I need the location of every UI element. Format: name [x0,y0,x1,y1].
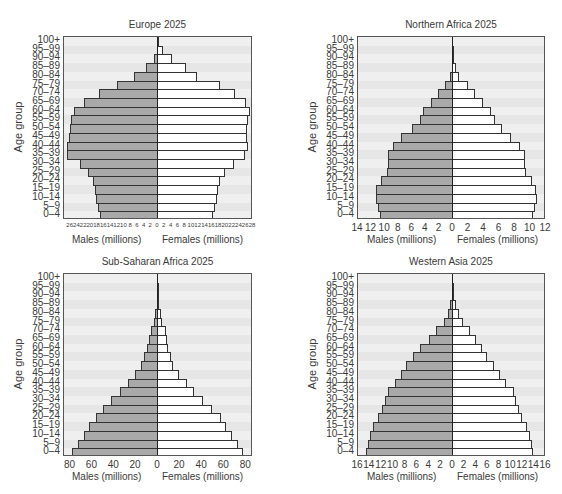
male-bar [103,405,159,415]
female-bar [452,142,520,152]
male-bar [84,431,159,441]
female-bar [452,168,526,178]
male-bar [70,124,159,134]
female-bar [452,431,530,441]
male-bar [388,387,454,397]
age-group-label: 0–4 [20,446,60,456]
female-bar [157,133,247,143]
male-bar [95,185,159,195]
male-bar [72,448,159,456]
y-axis-title: Age group [306,92,318,162]
female-bar [452,98,483,108]
x-tick-label-right: 40 [191,459,211,470]
y-axis-title: Age group [12,92,24,162]
female-bar [157,211,213,219]
plot-area [357,36,545,219]
female-bar [157,431,232,441]
female-bar [452,422,527,432]
male-bar [96,194,159,204]
x-axis-label-males: Males (millions) [72,471,141,482]
male-bar [71,115,159,125]
male-bar [393,142,454,152]
female-bar [452,361,494,371]
x-tick-label-right: 28 [242,222,262,228]
chart-title: Western Asia 2025 [357,256,545,267]
female-bar [452,159,525,169]
x-tick-label-left: 60 [81,459,101,470]
grid-stripe [358,46,544,55]
male-bar [401,370,454,380]
male-bar [406,361,454,371]
female-bar [452,396,516,406]
female-bar [157,413,221,423]
female-bar [157,159,234,169]
female-bar [452,309,459,319]
female-bar [157,379,187,389]
female-bar [452,413,522,423]
male-bar [376,194,454,204]
female-bar [157,370,179,380]
x-axis-label-females: Females (millions) [457,234,538,245]
male-bar [84,98,159,108]
chart-title: Europe 2025 [63,19,252,30]
male-bar [74,107,159,117]
female-bar [157,107,250,117]
female-bar [452,326,470,336]
male-bar [395,379,454,389]
male-bar [69,133,159,143]
female-bar [157,185,218,195]
x-tick-label-right: 80 [235,459,255,470]
male-bar [378,413,454,423]
female-bar [452,72,459,82]
male-bar [385,396,454,406]
female-bar [157,194,217,204]
female-bar [157,89,235,99]
male-bar [89,422,159,432]
plot-area [63,36,252,219]
male-bar [387,168,455,178]
x-axis-label-males: Males (millions) [367,234,436,245]
male-bar [111,396,159,406]
female-bar [157,176,220,186]
female-bar [157,335,167,345]
male-bar [93,176,159,186]
female-bar [452,344,482,354]
male-bar [135,370,159,380]
male-bar [381,176,454,186]
male-bar [366,448,454,456]
female-bar [157,203,215,213]
female-bar [452,124,502,134]
female-bar [157,72,197,82]
x-tick-label-right: 60 [213,459,233,470]
x-tick-label-right: 16 [535,459,555,470]
female-bar [157,448,243,456]
female-bar [157,142,248,152]
age-group-label: 0–4 [20,209,60,219]
female-bar [157,168,225,178]
male-bar [378,203,454,213]
female-bar [452,185,536,195]
female-bar [452,81,468,91]
x-axis-label-females: Females (millions) [162,234,243,245]
female-bar [157,440,238,450]
male-bar [80,159,159,169]
female-bar [157,422,226,432]
male-bar [96,413,159,423]
female-bar [452,335,476,345]
male-bar [98,203,159,213]
female-bar [452,387,514,397]
x-tick-label-left: 80 [60,459,80,470]
y-axis-title: Age group [12,329,24,399]
male-bar [134,72,159,82]
female-bar [452,194,537,204]
male-bar [413,352,454,362]
male-bar [373,422,454,432]
zero-axis-line [157,37,158,218]
female-bar [452,379,506,389]
male-bar [412,124,454,134]
male-bar [376,185,454,195]
male-bar [120,387,159,397]
y-axis-title: Age group [306,329,318,399]
age-group-label: 0–4 [314,446,354,456]
female-bar [452,203,535,213]
